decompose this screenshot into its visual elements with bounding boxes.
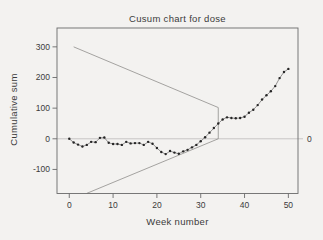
cusum-data-point [256,104,258,106]
cusum-data-point [72,141,74,143]
cusum-data-point [248,112,250,114]
cusum-data-point [173,151,175,153]
cusum-data-point [160,151,162,153]
cusum-data-point [178,153,180,155]
cusum-data-point [94,141,96,143]
cusum-data-point [217,122,219,124]
cusum-data-point [278,77,280,79]
cusum-data-point [99,137,101,139]
cusum-data-point [235,117,237,119]
cusum-chart-figure: Cusum chart for dose Cumulative sum Week… [0,0,323,240]
cusum-data-point [265,94,267,96]
x-tick-label: 10 [108,200,118,210]
y-tick-label: 100 [36,103,50,113]
cusum-data-point [143,144,145,146]
plot-border [57,28,298,194]
cusum-data-point [226,116,228,118]
cusum-data-point [213,127,215,129]
cusum-data-point [77,143,79,145]
cusum-data-point [169,150,171,152]
cusum-data-point [68,138,70,140]
x-tick-label: 0 [67,200,72,210]
cusum-data-point [274,85,276,87]
cusum-data-point [270,90,272,92]
cusum-data-point [81,145,83,147]
cusum-data-point [125,141,127,143]
cusum-data-point [116,143,118,145]
x-tick-label: 20 [152,200,162,210]
cusum-data-point [200,140,202,142]
cusum-data-point [112,143,114,145]
y-tick-label: 300 [36,42,50,52]
cusum-data-point [204,136,206,138]
x-tick-label: 50 [284,200,294,210]
cusum-data-point [134,142,136,144]
y-tick-label: 200 [36,72,50,82]
cusum-data-point [261,98,263,100]
cusum-data-point [164,153,166,155]
cusum-data-point [287,68,289,70]
cusum-data-point [90,141,92,143]
right-y-tick-label: 0 [307,134,312,144]
cusum-data-point [108,142,110,144]
vmask-upper-arm [74,47,219,108]
cusum-data-point [283,71,285,73]
cusum-data-point [195,144,197,146]
x-tick-label: 30 [196,200,206,210]
cusum-data-point [103,136,105,138]
cusum-series-line [69,69,288,154]
cusum-data-point [121,144,123,146]
cusum-data-point [138,142,140,144]
cusum-data-point [186,149,188,151]
cusum-data-point [147,141,149,143]
cusum-plot-canvas: 3002001000-100001020304050 [0,0,323,240]
cusum-data-point [230,117,232,119]
cusum-data-point [243,116,245,118]
cusum-data-point [156,147,158,149]
y-tick-label: 0 [45,134,50,144]
cusum-data-point [208,131,210,133]
cusum-data-point [151,142,153,144]
vmask-lower-arm [87,139,218,194]
cusum-data-point [86,144,88,146]
cusum-data-point [191,146,193,148]
cusum-data-point [252,108,254,110]
cusum-data-point [129,142,131,144]
x-tick-label: 40 [240,200,250,210]
cusum-data-point [182,150,184,152]
y-tick-label: -100 [33,164,50,174]
cusum-data-point [239,117,241,119]
cusum-data-point [221,118,223,120]
